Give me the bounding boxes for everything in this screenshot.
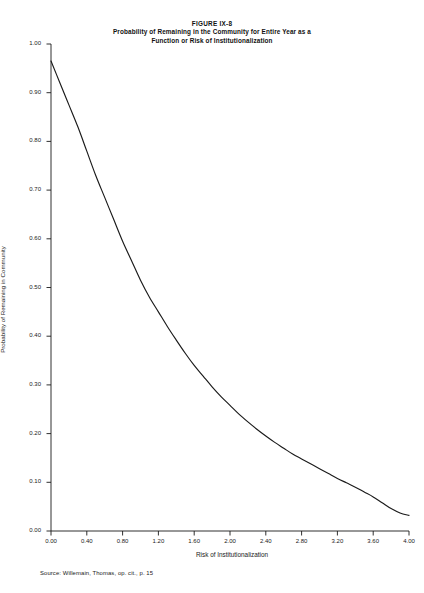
x-tick-label: 3.20	[322, 538, 352, 544]
y-tick-label: 0.90	[15, 89, 41, 95]
data-series-line	[51, 61, 409, 515]
y-tick-label: 0.80	[15, 137, 41, 143]
x-tick-label: 0.40	[72, 538, 102, 544]
x-tick-label: 0.80	[108, 538, 138, 544]
y-tick-label: 0.70	[15, 186, 41, 192]
x-tick-label: 1.20	[143, 538, 173, 544]
y-tick-label: 0.30	[15, 381, 41, 387]
x-tick-label: 4.00	[394, 538, 424, 544]
x-tick-label: 1.60	[179, 538, 209, 544]
axes-group	[51, 44, 409, 531]
y-axis-title: Probability of Remaining in Community	[0, 200, 6, 400]
axis-ticks	[47, 44, 410, 536]
x-tick-label: 3.60	[358, 538, 388, 544]
x-tick-label: 2.00	[215, 538, 245, 544]
x-tick-label: 2.80	[287, 538, 317, 544]
x-tick-label: 2.40	[251, 538, 281, 544]
plot-area: 0.000.100.200.300.400.500.600.700.800.90…	[0, 0, 424, 593]
source-note: Source: Willemain, Thomas, op. cit., p. …	[40, 570, 153, 576]
figure-container: FIGURE IX-8 Probability of Remaining in …	[0, 0, 424, 593]
x-axis-title: Risk of Institutionalization	[0, 551, 424, 558]
chart-svg	[0, 0, 424, 593]
y-tick-label: 0.50	[15, 284, 41, 290]
y-tick-label: 0.20	[15, 430, 41, 436]
x-tick-label: 0.00	[36, 538, 66, 544]
y-tick-label: 0.10	[15, 478, 41, 484]
y-tick-label: 1.00	[15, 40, 41, 46]
y-tick-label: 0.60	[15, 235, 41, 241]
y-tick-label: 0.40	[15, 332, 41, 338]
y-tick-label: 0.00	[15, 527, 41, 533]
